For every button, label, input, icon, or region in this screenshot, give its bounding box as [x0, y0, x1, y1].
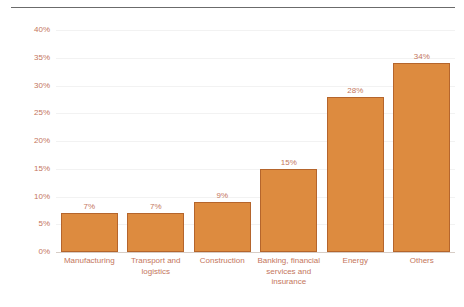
bar-slot: 15%: [260, 24, 317, 252]
bar[interactable]: [393, 63, 450, 252]
bar-slot: 7%: [61, 24, 118, 252]
bar-slot: 7%: [127, 24, 184, 252]
bar[interactable]: [260, 169, 317, 252]
bar[interactable]: [327, 97, 384, 252]
bar-chart: Revenue share 0%5%10%15%20%25%30%35%40% …: [0, 0, 464, 307]
x-axis-label: Energy: [323, 256, 388, 267]
y-tick-label: 25%: [6, 108, 50, 117]
axis-baseline: [56, 252, 455, 253]
bar[interactable]: [61, 213, 118, 252]
x-axis-label: Others: [390, 256, 455, 267]
y-tick-label: 35%: [6, 53, 50, 62]
y-tick-label: 15%: [6, 164, 50, 173]
bar-value-label: 7%: [61, 202, 118, 211]
x-axis-categories: ManufacturingTransport and logisticsCons…: [56, 256, 455, 306]
bar-slot: 9%: [194, 24, 251, 252]
bar-value-label: 15%: [260, 158, 317, 167]
top-divider-rule: [11, 7, 455, 8]
bar[interactable]: [127, 213, 184, 252]
bar-value-label: 9%: [194, 191, 251, 200]
x-axis-label: Construction: [190, 256, 255, 267]
x-axis-label: Manufacturing: [57, 256, 122, 267]
y-tick-label: 0%: [6, 247, 50, 256]
bar-value-label: 7%: [127, 202, 184, 211]
y-tick-label: 30%: [6, 81, 50, 90]
bar[interactable]: [194, 202, 251, 252]
bar-slot: 28%: [327, 24, 384, 252]
bar-slot: 34%: [393, 24, 450, 252]
bar-value-label: 34%: [393, 52, 450, 61]
y-tick-label: 5%: [6, 219, 50, 228]
x-axis-label: Transport and logistics: [124, 256, 189, 277]
y-tick-label: 40%: [6, 25, 50, 34]
bar-value-label: 28%: [327, 86, 384, 95]
y-tick-label: 20%: [6, 136, 50, 145]
bar-series: 7%7%9%15%28%34%: [56, 24, 455, 252]
y-tick-label: 10%: [6, 192, 50, 201]
x-axis-label: Banking, financial services and insuranc…: [257, 256, 322, 288]
